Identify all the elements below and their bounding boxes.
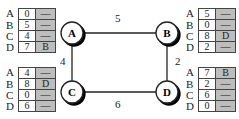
row-label: A [4, 67, 18, 78]
routing-table-c: A 4 — B 8 D C 0 — D 6 — [4, 67, 56, 112]
routing-table-b: A 5 — B 0 — C 8 D D 2 — [184, 8, 236, 53]
next-hop-cell: — [36, 101, 56, 112]
row-label: A [184, 8, 198, 19]
edge-weight-b-d: 2 [175, 55, 181, 67]
distance-cell: 2 [198, 42, 216, 53]
row-label: D [4, 42, 18, 53]
row-label: A [184, 67, 198, 78]
routing-table-a: A 0 — B 5 — C 4 — D 7 B [4, 8, 56, 53]
node-b: B [156, 22, 178, 44]
node-a: A [61, 22, 83, 44]
svg-text:C: C [68, 86, 76, 98]
svg-text:D: D [163, 86, 171, 98]
row-label: D [184, 42, 198, 53]
next-hop-cell: — [216, 101, 236, 112]
routing-table-d: A 7 B B 2 — C 6 — D 0 — [184, 67, 236, 112]
svg-text:B: B [163, 27, 171, 39]
node-d: D [156, 81, 178, 103]
row-label: D [4, 101, 18, 112]
row-label: A [4, 8, 18, 19]
distance-cell: 6 [18, 101, 36, 112]
row-label: D [184, 101, 198, 112]
svg-text:A: A [68, 27, 76, 39]
edge-weight-a-c: 4 [60, 55, 66, 67]
node-c: C [61, 81, 83, 103]
edge-weight-c-d: 6 [115, 98, 121, 110]
next-hop-cell: — [216, 42, 236, 53]
next-hop-cell: B [36, 42, 56, 53]
edge-weight-a-b: 5 [115, 12, 121, 24]
distance-cell: 0 [198, 101, 216, 112]
distance-cell: 7 [18, 42, 36, 53]
